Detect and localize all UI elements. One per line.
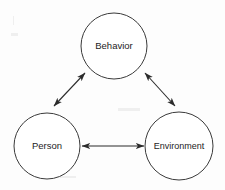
node-person-label: Person <box>32 140 62 151</box>
node-behavior-label: Behavior <box>95 40 133 51</box>
node-environment[interactable]: Environment <box>145 112 213 180</box>
edge-behavior-environment <box>145 73 175 106</box>
node-person[interactable]: Person <box>14 113 80 179</box>
node-environment-label: Environment <box>154 141 205 151</box>
edge-person-behavior <box>54 73 85 106</box>
reciprocal-determinism-diagram: Behavior Person Environment <box>0 0 225 190</box>
diagram-canvas: Behavior Person Environment <box>0 0 225 190</box>
node-behavior[interactable]: Behavior <box>81 13 147 79</box>
